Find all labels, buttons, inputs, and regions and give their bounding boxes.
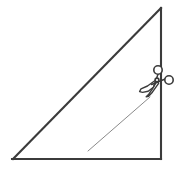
scissors-pivot — [155, 78, 159, 82]
triangle-hypotenuse — [13, 8, 161, 159]
scissors-icon — [140, 66, 174, 97]
scissors-upper-handle-ring — [154, 66, 162, 74]
cut-line — [88, 97, 150, 151]
diagram-canvas: Right triangle with scissors cut line — [0, 0, 184, 170]
right-triangle-shape — [12, 8, 161, 159]
triangle-cut-diagram — [0, 0, 184, 170]
scissors-right-handle-ring — [165, 76, 173, 84]
